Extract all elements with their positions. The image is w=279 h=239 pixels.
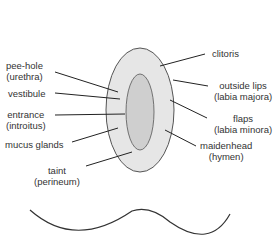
- label-outer-lips: outside lips (labia majora): [214, 80, 272, 102]
- label-text: flaps: [214, 113, 272, 124]
- label-entrance: entrance (introitus): [6, 109, 46, 131]
- label-subtext: (introitus): [6, 120, 46, 131]
- label-subtext: (labia majora): [214, 91, 272, 102]
- label-text: vestibule: [8, 88, 46, 99]
- label-clitoris: clitoris: [212, 48, 239, 59]
- label-hymen: maidenhead (hymen): [200, 140, 252, 162]
- body-contour-line: [30, 209, 230, 234]
- label-inner-lips: flaps (labia minora): [214, 113, 272, 135]
- label-perineum: taint (perineum): [34, 165, 80, 187]
- label-mucus-glands: mucus glands: [5, 139, 64, 150]
- label-text: maidenhead: [200, 140, 252, 151]
- label-vestibule: vestibule: [8, 88, 46, 99]
- label-subtext: (urethra): [6, 71, 43, 82]
- label-urethra: pee-hole (urethra): [6, 60, 43, 82]
- central-figure-inner: [126, 74, 154, 150]
- label-subtext: (perineum): [34, 176, 80, 187]
- label-text: mucus glands: [5, 139, 64, 150]
- label-subtext: (hymen): [200, 151, 252, 162]
- label-text: entrance: [6, 109, 46, 120]
- label-text: pee-hole: [6, 60, 43, 71]
- label-text: outside lips: [214, 80, 272, 91]
- label-text: taint: [34, 165, 80, 176]
- label-subtext: (labia minora): [214, 124, 272, 135]
- label-text: clitoris: [212, 48, 239, 59]
